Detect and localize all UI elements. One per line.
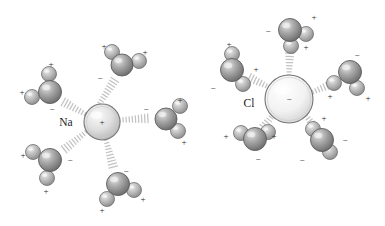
na-water-right-oxygen: [155, 108, 177, 130]
na-water-bottom-charge-3: −: [123, 166, 128, 176]
bond-na-upper-left: [61, 98, 87, 118]
cl-water-top-oxygen: [279, 19, 302, 42]
na-water-top-charge-2: +: [142, 47, 147, 57]
bond-na-bottom: [102, 139, 118, 168]
cl-water-top-charge-3: +: [303, 42, 308, 52]
na-water-bottom: [100, 173, 142, 207]
ion-hydration-diagram: +Na−Cl ++−++−++−++−++−−++−++−++++−+−−: [0, 0, 385, 226]
na-water-lower-left-charge-3: −: [67, 155, 72, 165]
cl-water-right-oxygen: [339, 61, 362, 84]
na-water-right: [155, 99, 188, 139]
cl-water-right-charge-3: +: [365, 93, 370, 103]
cl-water-lower-left-charge-2: +: [271, 131, 276, 141]
na-water-lower-left: [26, 145, 62, 186]
chloride-ion-label: Cl: [244, 97, 255, 109]
cl-water-lower-left-oxygen: [244, 128, 267, 151]
na-water-lower-left-charge-2: +: [43, 186, 48, 196]
cl-water-upper-left-charge-3: +: [253, 64, 258, 74]
cl-water-lower-right-charge-3: −: [299, 155, 304, 165]
na-water-lower-left-hydrogen-2: [40, 171, 55, 186]
na-water-lower-left-charge-1: +: [20, 150, 25, 160]
sodium-ion: +: [84, 104, 120, 140]
na-water-right-charge-1: +: [177, 95, 182, 105]
na-water-top-charge-3: −: [97, 73, 102, 83]
na-water-lower-left-oxygen: [39, 149, 62, 172]
cl-water-lower-left-charge-1: +: [223, 131, 228, 141]
chloride-ion: −: [265, 75, 313, 123]
cl-water-lower-right-oxygen: [311, 129, 334, 152]
figure-canvas: +Na−Cl ++−++−++−++−++−−++−++−++++−+−−: [0, 0, 385, 226]
cl-water-lower-left-charge-3: −: [255, 154, 260, 164]
cl-water-upper-left-charge-1: −: [210, 83, 215, 93]
na-water-top-oxygen: [111, 54, 133, 76]
cl-water-lower-right-charge-2: −: [342, 135, 347, 145]
bond-na-right: [120, 114, 148, 125]
cl-water-upper-left-charge-2: +: [226, 39, 231, 49]
na-water-right-charge-2: +: [181, 137, 186, 147]
cl-water-lower-right-charge-1: +: [321, 113, 326, 123]
cl-water-upper-left-oxygen: [221, 59, 244, 82]
cl-water-lower-left: [234, 125, 276, 151]
na-water-upper-left-hydrogen-1: [25, 90, 40, 105]
bond-cl-top: [285, 50, 295, 75]
na-water-right-charge-3: −: [143, 104, 148, 114]
na-water-top: [105, 45, 147, 77]
sodium-ion-charge: +: [99, 117, 104, 127]
sodium-ion-label: Na: [59, 116, 72, 128]
cl-water-lower-right: [306, 122, 338, 160]
cl-water-right-charge-2: +: [327, 91, 332, 101]
cl-water-top-charge-2: +: [311, 12, 316, 22]
na-water-upper-left-oxygen: [39, 81, 62, 104]
na-water-upper-left-charge-3: −: [49, 104, 54, 114]
cl-water-right-charge-1: −: [354, 50, 359, 60]
chloride-ion-charge: −: [286, 94, 291, 104]
cl-water-upper-left: [221, 47, 251, 92]
cl-water-top-charge-1: −: [265, 26, 270, 36]
na-water-bottom-charge-2: +: [140, 194, 145, 204]
na-water-upper-left-charge-2: +: [19, 87, 24, 97]
na-water-upper-left-charge-1: +: [48, 59, 53, 69]
charge-symbol-layer: ++−++−++−++−++−−++−++−++++−+−−: [19, 12, 370, 215]
na-water-bottom-charge-1: +: [99, 205, 104, 215]
na-water-top-charge-1: +: [101, 41, 106, 51]
na-water-upper-left: [25, 67, 62, 105]
na-water-lower-left-hydrogen-1: [26, 145, 41, 160]
bond-na-lower-left: [61, 129, 88, 153]
cl-water-right-hydrogen-1: [327, 76, 342, 91]
